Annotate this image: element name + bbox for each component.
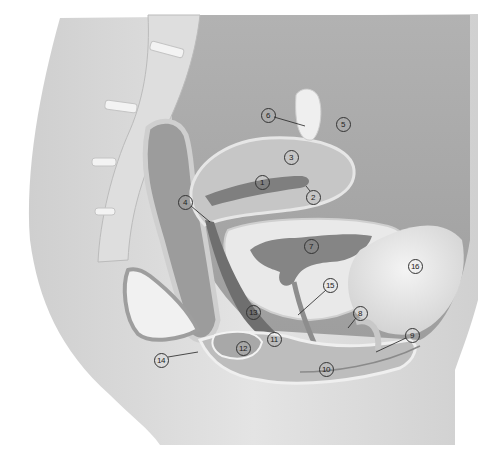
callout-1: 1 <box>255 175 270 190</box>
callout-4: 4 <box>178 195 193 210</box>
anatomy-illustration <box>0 0 495 471</box>
callout-12: 12 <box>236 341 251 356</box>
callout-9: 9 <box>405 328 420 343</box>
callout-3: 3 <box>284 150 299 165</box>
callout-14: 14 <box>154 353 169 368</box>
callout-13: 13 <box>246 305 261 320</box>
callout-7: 7 <box>304 239 319 254</box>
callout-16: 16 <box>408 259 423 274</box>
callout-15: 15 <box>323 278 338 293</box>
pelvis-anatomy-diagram: 12345678910111213141516 <box>0 0 495 471</box>
callout-6: 6 <box>261 108 276 123</box>
callout-2: 2 <box>306 190 321 205</box>
callout-8: 8 <box>353 306 368 321</box>
callout-5: 5 <box>336 117 351 132</box>
callout-11: 11 <box>267 332 282 347</box>
callout-10: 10 <box>319 362 334 377</box>
